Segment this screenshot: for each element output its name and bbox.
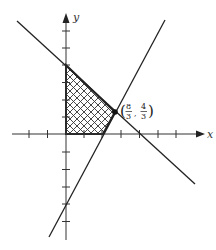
y-axis-label: y <box>72 11 80 24</box>
y-numerator: 4 <box>141 102 146 111</box>
y-axis-arrow-icon <box>63 13 70 23</box>
label-open-paren: ( <box>120 102 126 120</box>
coordinate-diagram: x y ( 8 3 , 4 3 ) <box>0 0 216 250</box>
feasible-region <box>66 65 115 134</box>
label-close-paren: ) <box>148 102 154 120</box>
line-x-plus-y-equals-4 <box>17 21 195 184</box>
x-axis-arrow-icon <box>196 131 205 138</box>
y-denominator: 3 <box>141 112 146 121</box>
x-axis-label: x <box>207 128 214 141</box>
x-numerator: 8 <box>126 102 131 111</box>
vertex-label: ( 8 3 , 4 3 ) <box>120 102 154 121</box>
x-denominator: 3 <box>126 112 131 121</box>
vertex-point <box>112 109 118 115</box>
x-axis: x <box>12 128 214 141</box>
label-comma: , <box>134 109 137 118</box>
